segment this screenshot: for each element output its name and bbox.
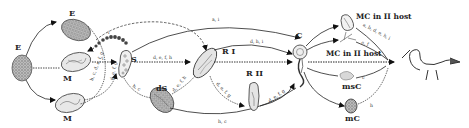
arrow-beads-to-m (88, 48, 94, 51)
miracidium-mid-icon (59, 49, 93, 74)
trematode-life-cycle-diagram: E E M M S dS R I R II C MC in II host MC… (0, 0, 469, 128)
edge-label-top-dashed: i (108, 31, 109, 36)
arrow-c-to-mc (304, 72, 344, 106)
miracidium-bottom-icon (53, 90, 87, 115)
stage-label-mc-host-mid: MC in II host (326, 50, 382, 58)
metacercarial-cyst-small-icon (340, 71, 354, 80)
stage-label-msc: msC (342, 82, 361, 90)
second-host-plant-icon (340, 32, 356, 42)
redia-two-icon (249, 82, 259, 110)
edge-label-c-to-mc: h (370, 104, 373, 109)
cercaria-icon (293, 45, 307, 87)
bird-icon (402, 50, 460, 80)
arrow-e-to-m-bottom (26, 80, 55, 100)
edge-label-c-to-msc: c (362, 76, 365, 81)
second-host-snail-icon (341, 15, 354, 31)
stage-label-mc: mC (345, 114, 360, 122)
stage-label-mc-host-top: MC in II host (356, 13, 412, 21)
arrow-c-to-msc (307, 68, 338, 76)
stage-label-cercaria: C (296, 31, 302, 39)
stage-label-egg-left: E (15, 43, 21, 51)
edge-label-s-to-ri: d, e, f, h (153, 56, 172, 61)
edge-label-s-to-c: a, i (212, 18, 219, 23)
stage-label-egg-top: E (69, 9, 75, 17)
arrow-e-to-e (26, 22, 56, 56)
stage-label-miracidium-bottom: M (63, 114, 72, 122)
edge-label-ri-to-c: d, h, i (250, 40, 263, 45)
stage-label-redia-one: R I (222, 47, 235, 55)
stage-label-daughter-sporocyst: dS (156, 84, 167, 92)
edge-label-ds-to-c: h, c (218, 120, 226, 125)
stage-label-miracidium-mid: M (63, 74, 72, 82)
egg-left-icon (12, 55, 32, 81)
metacercaria-icon (345, 99, 357, 113)
arrow-msc-to-bird (356, 66, 386, 78)
egg-top-icon (58, 15, 93, 44)
stage-label-sporocyst: S (131, 55, 137, 63)
sporocyst-icon (119, 50, 132, 77)
redia-one-icon (189, 44, 222, 81)
stage-label-redia-two: R II (246, 69, 263, 77)
